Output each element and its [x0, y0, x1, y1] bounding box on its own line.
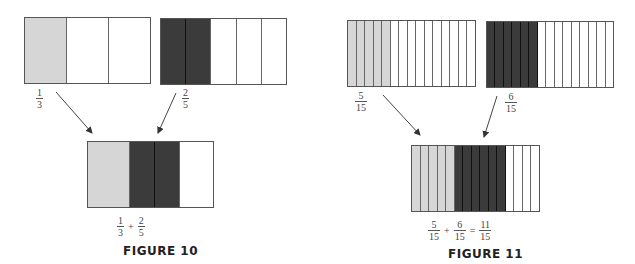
arrow-icon	[484, 96, 497, 137]
arrow-icon	[158, 93, 176, 133]
arrow-icon	[383, 95, 420, 135]
arrow-icon	[56, 92, 92, 133]
arrows-layer	[0, 0, 635, 264]
